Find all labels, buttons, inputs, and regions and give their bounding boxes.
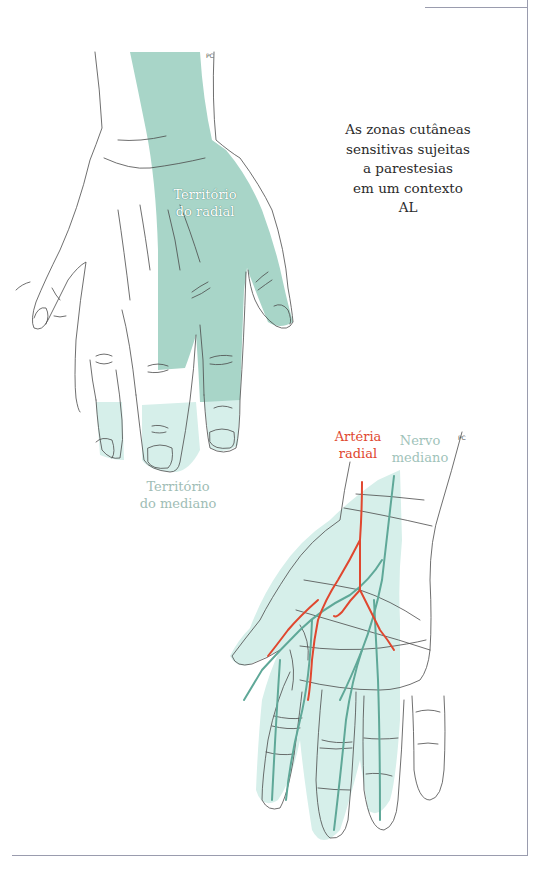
caption-line-2: sensitivas sujeitas	[340, 140, 476, 160]
label-nerve-line-1: Nervo	[390, 432, 450, 449]
label-median-line-2: do mediano	[128, 495, 228, 512]
label-artery-line-2: radial	[328, 445, 388, 462]
label-median-nerve: Nervo mediano	[390, 432, 450, 466]
label-radial-territory: Território do radial	[168, 186, 242, 220]
label-median-territory: Território do mediano	[128, 478, 228, 512]
label-median-line-1: Território	[128, 478, 228, 495]
label-artery-line-1: Artéria	[328, 428, 388, 445]
caption-line-4: em um contexto	[340, 179, 476, 199]
bottom-figure-signature: PC	[458, 434, 466, 441]
label-nerve-line-2: mediano	[390, 449, 450, 466]
caption-line-5: AL	[340, 198, 476, 218]
caption-line-1: As zonas cutâneas	[340, 120, 476, 140]
caption-line-3: a parestesias	[340, 159, 476, 179]
label-radial-line-1: Território	[168, 186, 242, 203]
label-radial-artery: Artéria radial	[328, 428, 388, 462]
label-radial-line-2: do radial	[168, 203, 242, 220]
figure-caption: As zonas cutâneas sensitivas sujeitas a …	[340, 120, 476, 218]
